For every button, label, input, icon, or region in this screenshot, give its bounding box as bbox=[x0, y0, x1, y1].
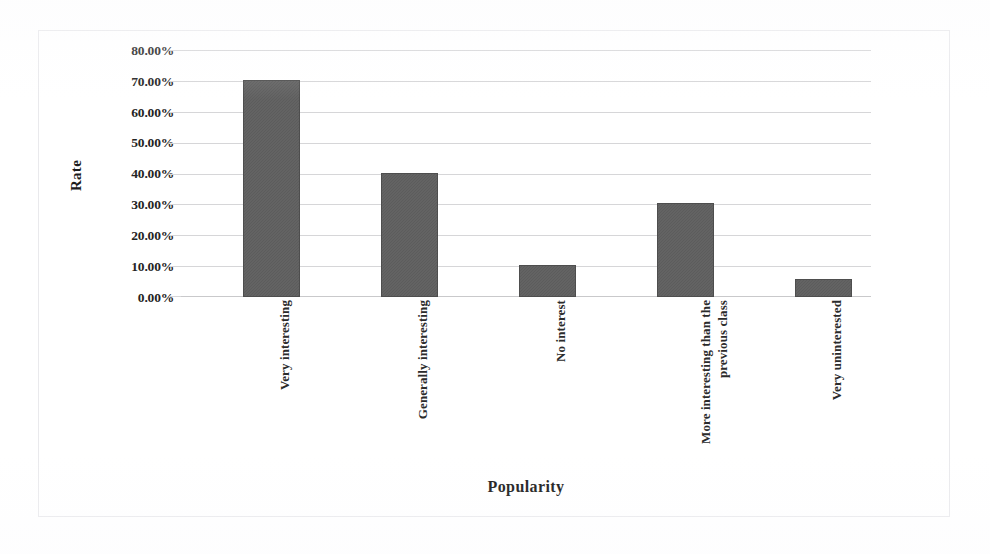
bar-very-interesting bbox=[243, 80, 300, 297]
bar-more-interesting bbox=[657, 203, 714, 297]
y-axis-tick-labels: 80.00% 70.00% 60.00% 50.00% 40.00% 30.00… bbox=[92, 0, 174, 554]
y-tick-label: 20.00% bbox=[94, 229, 174, 243]
x-category-label-line: previous class bbox=[715, 300, 732, 444]
y-axis-title-text: Rate bbox=[69, 159, 86, 190]
x-category-label-line: Very uninterested bbox=[829, 300, 844, 400]
gridline-80 bbox=[181, 50, 871, 51]
plot-area bbox=[181, 50, 871, 297]
bar-no-interest bbox=[519, 265, 576, 297]
y-tick-label: 70.00% bbox=[94, 75, 174, 89]
y-tick-label: 40.00% bbox=[94, 167, 174, 181]
y-axis-title: Rate bbox=[64, 140, 90, 210]
x-category-label-line: Very interesting bbox=[277, 300, 292, 390]
y-tick-label: 80.00% bbox=[94, 44, 174, 58]
y-tick-label: 60.00% bbox=[94, 106, 174, 120]
x-category-label-line: Generally interesting bbox=[415, 300, 430, 419]
x-axis-category-labels: Very interesting Generally interesting N… bbox=[181, 300, 871, 490]
bar-chart-figure: Rate 80.00% 70.00% 60.00% 50.00% 40.00% … bbox=[0, 0, 990, 554]
y-tick-label: 50.00% bbox=[94, 136, 174, 150]
y-tick-label: 0.00% bbox=[94, 291, 174, 305]
y-tick-label: 30.00% bbox=[94, 198, 174, 212]
bar-very-uninterested bbox=[795, 279, 852, 298]
x-category-label-line: No interest bbox=[553, 300, 568, 362]
x-axis-title: Popularity bbox=[181, 478, 871, 496]
bar-generally-interesting bbox=[381, 173, 438, 298]
x-category-label-line: More interesting than the bbox=[698, 300, 713, 444]
y-tick-label: 10.00% bbox=[94, 260, 174, 274]
